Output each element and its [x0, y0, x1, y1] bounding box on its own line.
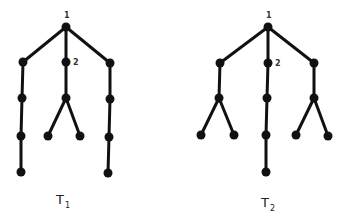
tree-node: [104, 169, 113, 178]
tree-edge: [109, 99, 110, 137]
tree-t1: 12T1: [17, 11, 115, 210]
tree-edge: [266, 98, 267, 135]
node-number-label: 1: [64, 11, 70, 20]
tree-node: [62, 23, 71, 32]
tree-edge: [219, 63, 220, 98]
tree-edge: [48, 98, 66, 136]
tree-edge: [220, 27, 268, 63]
tree-name-subscript: 2: [270, 204, 275, 213]
tree-edge: [21, 98, 22, 136]
tree-name-label: T: [260, 195, 269, 210]
tree-node: [62, 94, 71, 103]
tree-node: [262, 131, 271, 140]
tree-edge: [296, 98, 314, 135]
tree-diagram: 12T1 12T2: [0, 0, 346, 222]
tree-node: [262, 168, 271, 177]
tree-node: [215, 94, 224, 103]
tree-edge: [66, 98, 80, 136]
tree-node: [17, 132, 26, 141]
tree-node: [17, 168, 26, 177]
tree-node: [264, 23, 273, 32]
tree-node: [62, 58, 71, 67]
tree-node: [44, 132, 53, 141]
tree-node: [18, 94, 27, 103]
tree-edge: [23, 27, 66, 62]
tree-node: [324, 132, 333, 141]
tree-node: [310, 59, 319, 68]
tree-node: [105, 133, 114, 142]
tree-node: [106, 59, 115, 68]
tree-node: [106, 95, 115, 104]
tree-node: [292, 131, 301, 140]
tree-node: [230, 131, 239, 140]
tree-node: [19, 58, 28, 67]
tree-edge: [219, 98, 234, 135]
tree-node: [263, 94, 272, 103]
tree-edge: [267, 63, 268, 98]
tree-node: [197, 131, 206, 140]
tree-name-subscript: 1: [65, 201, 70, 210]
tree-edge: [314, 98, 328, 136]
tree-edge: [108, 137, 109, 173]
node-number-label: 1: [266, 11, 272, 20]
tree-node: [216, 59, 225, 68]
tree-edge: [268, 27, 314, 63]
tree-t2: 12T2: [197, 11, 333, 213]
node-number-label: 2: [73, 58, 79, 67]
node-number-label: 2: [275, 59, 281, 68]
tree-node: [76, 132, 85, 141]
tree-name-label: T: [55, 192, 64, 207]
tree-edge: [22, 62, 23, 98]
tree-node: [310, 94, 319, 103]
tree-edge: [201, 98, 219, 135]
tree-node: [264, 59, 273, 68]
